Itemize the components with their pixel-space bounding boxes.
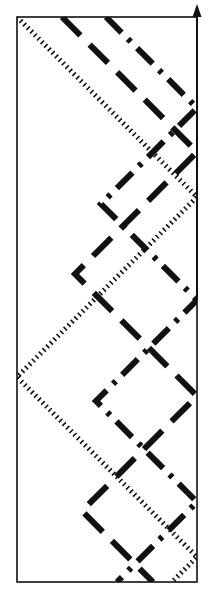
vertical-axis-arrow <box>193 4 202 300</box>
ray-dashed-path <box>62 17 197 582</box>
figure-root <box>0 0 213 604</box>
ray-reflection-diagram <box>0 0 213 604</box>
rectangular-boundary <box>17 17 197 582</box>
ray-group <box>17 17 197 582</box>
axis-arrowhead <box>193 4 202 17</box>
ray-dotted-path <box>17 17 197 582</box>
